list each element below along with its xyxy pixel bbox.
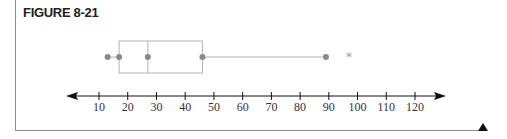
min-point [105,54,111,60]
median-point [145,54,151,60]
axis-tick-label: 90 [323,100,335,114]
number-line-axis: 102030405060708090100110120 [66,92,446,114]
end-of-figure-triangle-icon [478,123,488,131]
box-plot: * 102030405060708090100110120 [0,0,507,139]
box-and-whisker: * [105,41,352,73]
axis-tick-label: 110 [378,100,396,114]
interquartile-box [119,41,202,73]
axis-tick-label: 70 [265,100,277,114]
q1-point [116,54,122,60]
max-point [323,54,329,60]
axis-tick-label: 20 [122,100,134,114]
outlier-asterisk-icon: * [346,50,352,64]
axis-tick-label: 80 [294,100,306,114]
axis-tick-label: 40 [179,100,191,114]
axis-tick-label: 30 [150,100,162,114]
axis-tick-label: 10 [93,100,105,114]
q3-point [199,54,205,60]
axis-tick-label: 120 [406,100,424,114]
axis-tick-label: 50 [208,100,220,114]
axis-tick-label: 100 [349,100,367,114]
axis-tick-label: 60 [237,100,249,114]
